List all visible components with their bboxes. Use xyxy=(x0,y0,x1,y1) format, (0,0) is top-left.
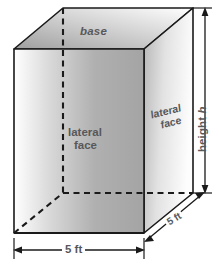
width-dimension-label: 5 ft xyxy=(62,243,85,256)
front-lateral-face-label-line2: face xyxy=(74,139,102,152)
base-label: base xyxy=(80,25,107,38)
prism-figure: base lateral face lateral face height h … xyxy=(0,0,219,266)
prism-drawing xyxy=(0,0,219,266)
front-lateral-face-label-line1: lateral xyxy=(68,126,102,138)
front-lateral-face-label: lateral face xyxy=(68,126,102,152)
height-label: height h xyxy=(196,106,209,152)
height-variable: h xyxy=(196,106,208,113)
height-label-text: height xyxy=(196,114,208,152)
